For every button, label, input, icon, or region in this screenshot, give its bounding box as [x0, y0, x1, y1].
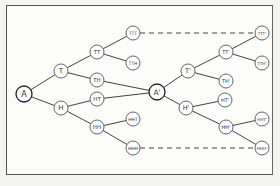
tree-node-hhh: HHH [126, 141, 140, 155]
node-label: TH' [221, 78, 230, 84]
node-label: TT [93, 49, 101, 55]
node-label: TTT [128, 31, 137, 36]
edge-H-HT [68, 101, 90, 107]
tree-node-t2: T' [181, 64, 195, 78]
node-label: TT' [221, 49, 229, 55]
tree-node-tth: TTH [126, 56, 140, 70]
edge-T2-TH2 [195, 73, 219, 79]
node-label: TTH [128, 61, 138, 66]
edge-TT2-TTT2 [232, 36, 256, 48]
node-label: TTT' [257, 31, 267, 36]
tree-node-th2: TH' [219, 74, 233, 88]
edge-T-TH [68, 73, 90, 79]
edge-H-HH [67, 111, 91, 123]
node-label: HHT' [257, 117, 267, 122]
tree-node-ttt: TTT [126, 26, 140, 40]
edge-A-H [31, 97, 54, 106]
node-label: H [58, 104, 63, 112]
tree-node-hhh2: HHH' [255, 141, 269, 155]
node-label: HT [93, 96, 101, 102]
edge-A-T [31, 75, 55, 90]
edge-TT-TTH [104, 54, 127, 61]
tree-node-hht2: HHT' [255, 112, 269, 126]
tree-nodes: ATHTTTHHTHHTTTTTHHHTHHHA'T'H'TT'TH'HT'HH… [16, 26, 269, 155]
edge-TH-A2 [104, 81, 149, 90]
node-label: T [58, 67, 64, 75]
edge-HH2-HHT2 [233, 121, 255, 126]
edge-A2-H2 [164, 96, 180, 105]
edge-HH-HHT [104, 121, 126, 126]
tree-node-a2: A' [149, 84, 165, 100]
node-label: TTH' [256, 61, 266, 66]
node-label: HT' [221, 97, 229, 103]
tree-node-ht2: HT' [218, 93, 232, 107]
edge-T2-TT2 [194, 55, 219, 68]
tree-node-tt2: TT' [219, 45, 233, 59]
edge-A2-T2 [164, 75, 183, 88]
node-label: HH' [222, 124, 231, 130]
node-label: A' [153, 88, 160, 97]
node-label: H' [183, 104, 190, 112]
tree-node-hh2: HH' [219, 120, 233, 134]
node-label: HHT [128, 117, 138, 122]
edge-TT-TTT [103, 36, 127, 48]
node-label: HH [93, 124, 101, 130]
tree-node-hht: HHT [126, 112, 140, 126]
edge-HT-A2 [104, 93, 149, 98]
node-label: HHH' [257, 146, 268, 151]
tree-node-h2: H' [179, 101, 193, 115]
tree-node-ht: HT [90, 92, 104, 106]
node-label: T' [184, 67, 191, 75]
edge-HH-HHH [103, 131, 127, 145]
tree-node-hh: HH [90, 120, 104, 134]
tree-node-th: TH [90, 73, 104, 87]
tree-node-ttt2: TTT' [255, 26, 269, 40]
edge-TT2-TTH2 [233, 54, 256, 61]
tree-node-h: H [54, 101, 68, 115]
tree-node-t: T [54, 64, 68, 78]
tree-node-tth2: TTH' [255, 56, 269, 70]
tree-node-tt: TT [90, 45, 104, 59]
node-label: HHH [128, 146, 138, 151]
edge-T-TT [67, 55, 91, 67]
node-label: TH [92, 77, 101, 83]
probability-tree-diagram: ATHTTTHHTHHTTTTTHHHTHHHA'T'H'TT'TH'HT'HH… [0, 0, 280, 186]
edge-H2-HH2 [192, 111, 219, 124]
edge-H2-HT2 [193, 101, 218, 106]
node-label: A [21, 90, 27, 99]
edge-HH2-HHH2 [232, 131, 256, 145]
tree-node-a: A [16, 86, 32, 102]
